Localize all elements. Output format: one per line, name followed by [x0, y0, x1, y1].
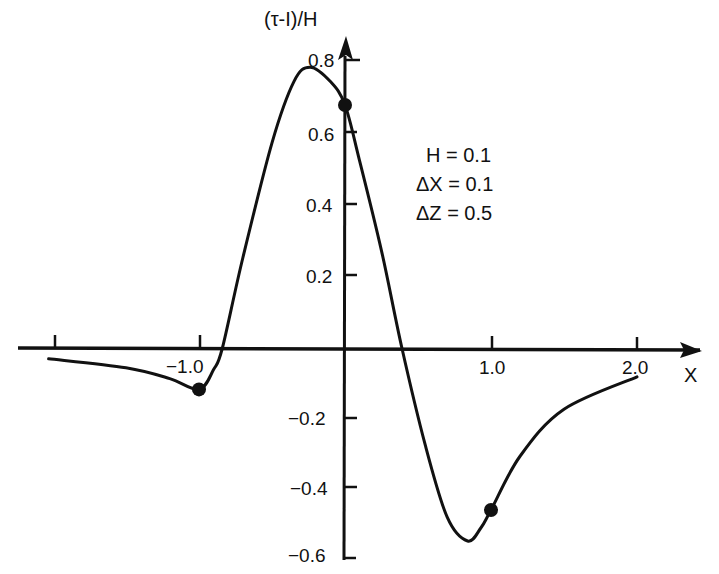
y-tick-label: 0.4: [306, 195, 333, 216]
parameter-annotations: H = 0.1 ΔX = 0.1 ΔZ = 0.5: [416, 144, 493, 224]
y-tick-label: 0.2: [306, 266, 332, 287]
y-tick-label: −0.6: [288, 545, 326, 566]
x-tick-label: 1.0: [479, 357, 505, 378]
y-tick-label: 0.6: [308, 124, 334, 145]
data-point-marker: [192, 382, 206, 396]
x-tick-label: −1.0: [166, 356, 204, 377]
y-axis-label: (τ-I)/H: [264, 8, 317, 30]
param-dx: ΔX = 0.1: [416, 173, 493, 195]
y-axis: 0.8 0.6 0.4 0.2 −0.2 −0.4 −0.6 (τ-I)/H: [264, 8, 360, 566]
x-tick-label: 2.0: [622, 357, 648, 378]
data-point-marker: [484, 503, 498, 517]
param-dz: ΔZ = 0.5: [416, 202, 492, 224]
param-h: H = 0.1: [426, 144, 491, 166]
x-axis: −1.0 1.0 2.0 X: [18, 335, 702, 386]
y-tick-label: −0.4: [290, 478, 328, 499]
data-point-marker: [338, 98, 352, 112]
y-tick-label: −0.2: [288, 408, 326, 429]
x-axis-label: X: [684, 364, 697, 386]
chart: −1.0 1.0 2.0 X 0.8 0.6 0.4 0.2 −0.2 −0.4…: [0, 0, 719, 574]
